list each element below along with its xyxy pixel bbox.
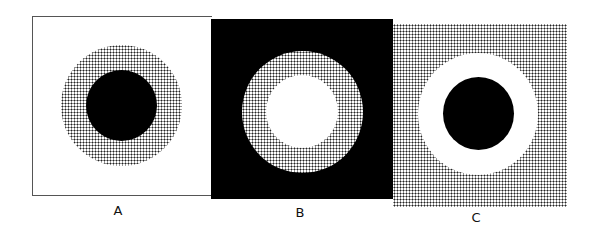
panel-c-label: C (471, 210, 480, 225)
panel-a-center-disk (86, 70, 157, 141)
panel-b-center-disk (266, 75, 338, 148)
panel-c-center-disk (443, 77, 514, 150)
panel-a-label: A (114, 203, 123, 218)
panel-b-label: B (296, 205, 305, 220)
